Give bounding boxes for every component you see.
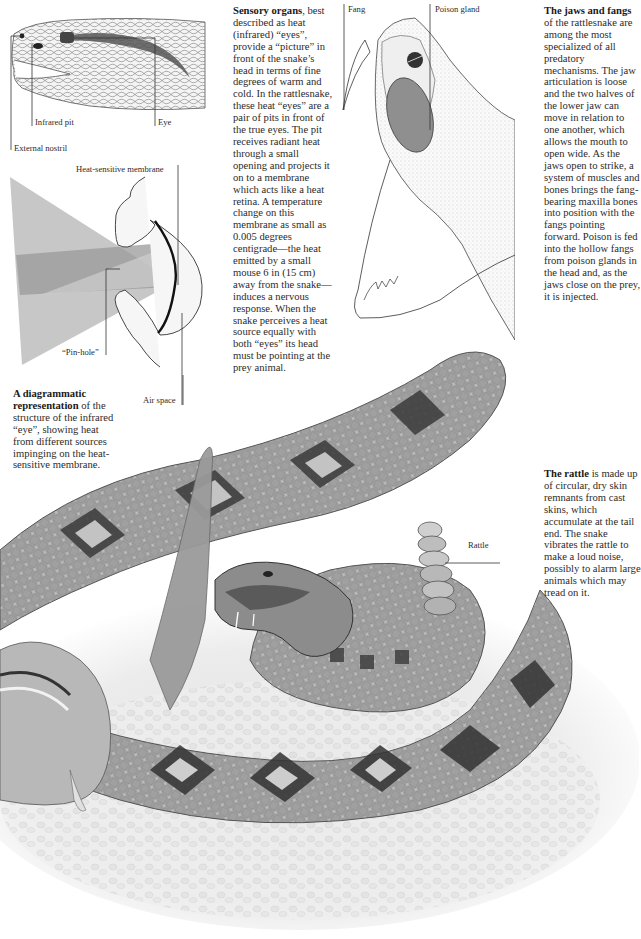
label-heat-sensitive-membrane: Heat-sensitive membrane [76, 164, 164, 174]
label-poison-gland: Poison gland [435, 4, 480, 14]
jaw-illustration [340, 0, 515, 340]
jaws-and-fangs-lead: The jaws and fangs [544, 5, 631, 16]
sensory-organs-body: , best described as heat (infrared) “eye… [233, 5, 332, 373]
snake-head-illustration [0, 0, 230, 160]
sensory-organs-lead: Sensory organs [233, 5, 302, 16]
jaws-and-fangs-text: The jaws and fangs of the rattlesnake ar… [544, 5, 641, 303]
snake-head-diagram: Infrared pit Eye External nostril [0, 0, 230, 160]
jaw-diagram: Fang Poison gland [340, 0, 515, 340]
rattle-text: The rattle is made up of circular, dry s… [544, 468, 641, 599]
label-fang: Fang [348, 4, 365, 14]
label-external-nostril: External nostril [14, 143, 67, 153]
rattle-body: is made up of circular, dry skin remnant… [544, 468, 641, 598]
label-infrared-pit: Infrared pit [35, 117, 74, 127]
label-eye: Eye [158, 117, 171, 127]
rattlesnake-scene [0, 330, 639, 939]
sensory-organs-text: Sensory organs, best described as heat (… [233, 5, 333, 374]
label-rattle: Rattle [468, 540, 489, 550]
rattlesnake-illustration: Rattle [0, 330, 639, 939]
jaws-and-fangs-body: of the rattlesnake are among the most sp… [544, 17, 640, 302]
rattle-lead: The rattle [544, 468, 589, 479]
